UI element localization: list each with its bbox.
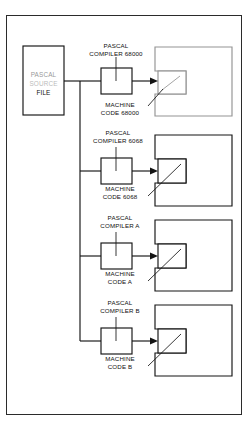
machine-code-label-1-line1: MACHINE [105,101,135,108]
compiler-box-1 [101,68,132,94]
source-file-label-line3: FILE [36,89,50,96]
arrow-head-3 [150,252,158,259]
target-computer-2 [155,135,232,206]
computer-screen-3 [158,244,186,268]
machine-code-label-4-line2: CODE B [108,363,133,370]
computer-screen-2 [158,159,186,183]
compiler-label-1-line1: PASCAL [104,42,129,49]
compiler-box-3 [101,243,132,269]
machine-code-label-2-line1: MACHINE [105,185,135,192]
machine-code-label-3-line1: MACHINE [105,270,135,277]
arrow-head-2 [150,167,158,174]
arrow-head-4 [150,337,158,344]
pipeline-group-68000: PASCAL COMPILER 68000 MACHINE CODE 68000 [80,42,232,116]
compiler-label-2-line1: PASCAL [106,129,131,136]
diagram-canvas: PASCAL SOURCE FILE PASCAL COMPILER 68000 [0,0,252,440]
pipeline-group-a: PASCAL COMPILER A MACHINE CODE A [80,214,232,291]
computer-screen-4 [158,329,186,353]
compiler-label-4-line1: PASCAL [108,299,133,306]
source-file-label-line1: PASCAL [31,71,57,78]
distribution-bus [64,81,80,341]
machine-code-label-4-line1: MACHINE [105,355,135,362]
machine-code-label-1-line2: CODE 68000 [101,109,140,116]
compiler-box-4 [101,328,132,354]
compiler-label-4-line2: COMPILER B [100,307,140,314]
target-computer-4 [155,305,232,376]
compiler-label-2-line2: COMPILER 6068 [93,137,143,144]
compiler-label-3-line1: PASCAL [108,214,133,221]
compiler-label-3-line2: COMPILER A [100,222,140,229]
arrow-head-1 [150,77,158,84]
compiler-box-2 [101,158,132,184]
pipeline-group-b: PASCAL COMPILER B MACHINE CODE B [80,299,232,376]
target-computer-1 [155,47,232,116]
machine-code-label-2-line2: CODE 6068 [103,193,138,200]
source-file-label-line2: SOURCE [29,80,57,87]
figure-root: PASCAL SOURCE FILE PASCAL COMPILER 68000 [0,0,252,440]
source-file-node: PASCAL SOURCE FILE [23,46,64,115]
compiler-label-1-line2: COMPILER 68000 [89,50,143,57]
machine-code-label-3-line2: CODE A [108,278,133,285]
pipeline-group-6068: PASCAL COMPILER 6068 MACHINE CODE 6068 [80,129,232,206]
target-computer-3 [155,220,232,291]
